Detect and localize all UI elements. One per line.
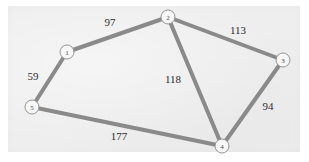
- graph-node-label-2: 2: [166, 14, 170, 22]
- graph-node-5: 5: [25, 100, 39, 114]
- graph-node-label-1: 1: [65, 49, 69, 57]
- edge-weight-label-2-4: 118: [165, 73, 182, 85]
- graph-edge-3-4: [222, 60, 283, 146]
- edges-layer: [32, 17, 283, 146]
- graph-node-label-5: 5: [30, 104, 34, 112]
- graph-node-2: 2: [161, 10, 175, 24]
- graph-edge-1-2: [67, 17, 168, 52]
- graph-node-1: 1: [60, 45, 74, 59]
- edge-weight-label-3-4: 94: [263, 100, 275, 112]
- graph-diagram: 12345 971131189459177: [0, 0, 309, 162]
- edge-weight-label-1-2: 97: [105, 16, 117, 28]
- edge-weight-label-1-5: 59: [28, 70, 40, 82]
- graph-node-4: 4: [215, 139, 229, 153]
- edge-weight-label-2-3: 113: [230, 24, 247, 36]
- figure-canvas: 12345 971131189459177: [0, 0, 309, 162]
- edge-weight-label-5-4: 177: [111, 130, 128, 142]
- graph-node-3: 3: [276, 53, 290, 67]
- graph-node-label-3: 3: [281, 57, 285, 65]
- graph-node-label-4: 4: [220, 143, 224, 151]
